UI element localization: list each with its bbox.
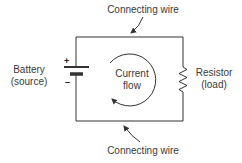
current-flow-label-line1: Current [106,68,158,80]
resistor-label: Resistor (load) [188,67,240,91]
current-flow-label: Current flow [106,68,158,92]
current-flow-label-line2: flow [106,80,158,92]
top-wire-label: Connecting wire [103,4,183,16]
battery-label-role: (source) [2,76,56,88]
battery-icon [64,67,89,74]
battery-plus-sign: + [64,56,69,66]
battery-minus-sign: – [65,77,70,87]
bottom-wire-pointer-icon [124,126,140,142]
top-wire-pointer-icon [131,17,143,33]
bottom-wire-label: Connecting wire [103,145,183,157]
battery-label: Battery (source) [2,64,56,88]
resistor-icon [179,67,187,92]
battery-label-name: Battery [2,64,56,76]
resistor-label-name: Resistor [188,67,240,79]
resistor-label-role: (load) [188,79,240,91]
